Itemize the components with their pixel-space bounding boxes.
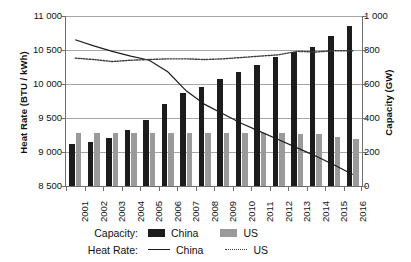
legend-heading-capacity: Capacity: xyxy=(0,227,148,239)
right-tick-label: 200 xyxy=(364,147,408,157)
left-tick-mark xyxy=(61,152,65,153)
x-tick-label: 2005 xyxy=(153,201,164,222)
right-axis-line xyxy=(362,16,363,186)
x-tick-label: 2016 xyxy=(357,201,368,222)
left-tick-mark xyxy=(61,186,65,187)
solid-line-swatch-icon xyxy=(148,247,170,253)
x-tick-label: 2001 xyxy=(79,201,90,222)
x-tick-label: 2010 xyxy=(246,201,257,222)
x-tick-label: 2009 xyxy=(227,201,238,222)
legend-row-heat-rate: Heat Rate: China US xyxy=(0,241,411,258)
legend-label-heat-rate-china: China xyxy=(176,244,203,256)
line-series-container xyxy=(66,16,362,186)
right-tick-label: 800 xyxy=(364,45,408,55)
x-tick-label: 2008 xyxy=(209,201,220,222)
legend-row-capacity: Capacity: China US xyxy=(0,224,411,241)
right-tick-label: 600 xyxy=(364,79,408,89)
right-tick-mark xyxy=(363,118,367,119)
x-tick-label: 2003 xyxy=(116,201,127,222)
legend-label-capacity-us: US xyxy=(243,227,258,239)
right-tick-mark xyxy=(363,50,367,51)
legend-item-capacity-china: China xyxy=(148,227,198,239)
left-axis-tick-labels: 8 5009 0009 50010 00010 50011 000 xyxy=(18,0,62,262)
heat-rate-china-line xyxy=(75,40,353,175)
x-tick-label: 2002 xyxy=(98,201,109,222)
right-tick-label: 1 000 xyxy=(364,11,408,21)
x-axis-tick-labels: 2001200220032004200520062007200820092010… xyxy=(66,188,362,226)
legend-item-heat-rate-us: US xyxy=(225,244,268,256)
right-tick-mark xyxy=(363,16,367,17)
legend-label-heat-rate-us: US xyxy=(253,244,268,256)
left-tick-mark xyxy=(61,118,65,119)
legend-heading-heat-rate: Heat Rate: xyxy=(0,244,148,256)
right-tick-label: 0 xyxy=(364,181,408,191)
left-tick-label: 10 500 xyxy=(18,45,62,55)
x-tick-label: 2004 xyxy=(135,201,146,222)
x-tick-label: 2006 xyxy=(172,201,183,222)
left-tick-mark xyxy=(61,84,65,85)
x-tick-label: 2011 xyxy=(264,202,275,222)
left-tick-label: 8 500 xyxy=(18,181,62,191)
left-tick-mark xyxy=(61,50,65,51)
right-tick-mark xyxy=(363,152,367,153)
x-tick-label: 2014 xyxy=(320,201,331,222)
left-tick-label: 9 000 xyxy=(18,147,62,157)
right-axis-tick-labels: 02004006008001 000 xyxy=(364,0,408,262)
legend-item-heat-rate-china: China xyxy=(148,244,203,256)
right-tick-label: 400 xyxy=(364,113,408,123)
bar-swatch-icon xyxy=(148,229,165,237)
right-tick-mark xyxy=(363,186,367,187)
right-tick-mark xyxy=(363,84,367,85)
left-tick-label: 11 000 xyxy=(18,11,62,21)
bar-swatch-icon xyxy=(220,229,237,237)
dual-axis-chart: Heat Rate (BTU / kWh) Capacity (GW) 8 50… xyxy=(0,0,411,262)
left-tick-label: 9 500 xyxy=(18,113,62,123)
x-tick-label: 2007 xyxy=(190,201,201,222)
plot-area xyxy=(66,16,362,186)
left-tick-label: 10 000 xyxy=(18,79,62,89)
x-tick-label: 2012 xyxy=(283,201,294,222)
chart-legend: Capacity: China US Heat Rate: China US xyxy=(0,224,411,262)
x-tick-label: 2015 xyxy=(338,201,349,222)
x-tick-label: 2013 xyxy=(301,201,312,222)
legend-item-capacity-us: US xyxy=(220,227,258,239)
dotted-line-swatch-icon xyxy=(225,247,247,253)
left-tick-mark xyxy=(61,16,65,17)
legend-label-capacity-china: China xyxy=(171,227,198,239)
